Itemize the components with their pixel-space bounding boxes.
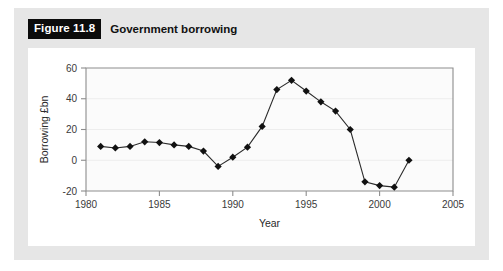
x-tick-label: 1980 — [75, 199, 98, 210]
y-tick-label: 20 — [66, 124, 78, 135]
x-tick-label: 1985 — [148, 199, 171, 210]
x-axis-title: Year — [259, 217, 281, 229]
figure-caption: Government borrowing — [110, 23, 237, 35]
y-tick-label: 0 — [71, 155, 77, 166]
x-tick-label: 2000 — [368, 199, 391, 210]
figure-root: Figure 11.8 Government borrowing -200204… — [0, 0, 503, 271]
y-axis-title: Borrowing £bn — [38, 95, 50, 163]
x-axis-ticks: 198019851990199520002005 — [75, 191, 465, 210]
y-tick-label: -20 — [63, 186, 78, 197]
figure-title-row: Figure 11.8 Government borrowing — [28, 20, 237, 38]
x-tick-label: 1995 — [295, 199, 318, 210]
y-tick-label: 40 — [66, 93, 78, 104]
y-tick-label: 60 — [66, 63, 78, 74]
x-tick-label: 2005 — [442, 199, 465, 210]
chart-card: -200204060 198019851990199520002005 Year… — [28, 48, 475, 246]
figure-number-badge: Figure 11.8 — [28, 19, 101, 40]
line-chart: -200204060 198019851990199520002005 Year… — [28, 48, 475, 246]
y-axis-ticks: -200204060 — [63, 63, 86, 197]
x-tick-label: 1990 — [222, 199, 245, 210]
